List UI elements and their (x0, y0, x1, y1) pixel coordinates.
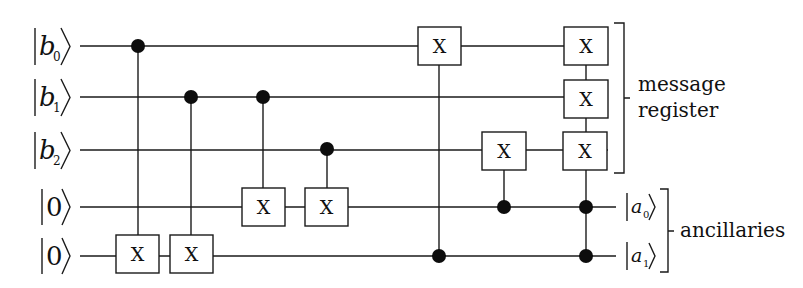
control-dot (320, 142, 334, 156)
x-gate-label: X (433, 35, 447, 57)
right-brace (614, 23, 630, 173)
cnot-gate-6: X (482, 132, 526, 214)
x-gate-label: X (257, 196, 271, 218)
input-ket-b2: b 2 (35, 132, 70, 169)
input-ket-b0: b 0 (35, 28, 70, 65)
cnot-gate-2: X (170, 90, 213, 273)
x-gate-label: X (579, 88, 593, 110)
x-gate-label: X (320, 196, 334, 218)
x-gate-label: X (185, 243, 199, 265)
output-ket-a0: a 0 (627, 193, 655, 221)
cnot-gate-5: X (418, 27, 461, 263)
ket-variable: 0 (46, 241, 63, 271)
input-ket-b1: b 1 (35, 79, 70, 116)
group-label-line-1: ancillaries (680, 218, 785, 242)
input-ket-zero-0: 0 (42, 189, 70, 225)
output-ket-a1: a 1 (627, 242, 655, 270)
input-ket-zero-1: 0 (42, 238, 70, 274)
ancillaries-group: ancillaries (660, 189, 785, 272)
x-gate-label: X (578, 140, 592, 162)
ket-variable: a (631, 195, 642, 217)
multi-controlled-x-gate: X X X (563, 27, 608, 263)
control-dot (432, 249, 446, 263)
ket-variable: 0 (46, 192, 63, 222)
control-dot (256, 90, 270, 104)
ket-subscript: 2 (53, 154, 61, 168)
control-dot (579, 200, 593, 214)
ket-variable: a (631, 244, 642, 266)
quantum-circuit-diagram: b 0 b 1 b 2 0 0 X X (0, 0, 803, 288)
ket-subscript: 0 (643, 209, 649, 220)
right-brace (660, 189, 674, 272)
x-gate-label: X (497, 140, 511, 162)
message-register-group: message register (614, 23, 726, 173)
control-dot (579, 249, 593, 263)
cnot-gate-1: X (116, 39, 159, 273)
x-gate-label: X (579, 35, 593, 57)
control-dot (131, 39, 145, 53)
group-label-line-1: message (638, 72, 726, 96)
ket-subscript: 0 (53, 50, 61, 64)
control-dot (497, 200, 511, 214)
cnot-gate-3: X (242, 90, 285, 226)
ket-subscript: 1 (643, 258, 649, 269)
group-label-line-2: register (638, 98, 719, 122)
cnot-gate-4: X (305, 142, 348, 226)
ket-subscript: 1 (53, 101, 61, 115)
control-dot (184, 90, 198, 104)
x-gate-label: X (131, 243, 145, 265)
